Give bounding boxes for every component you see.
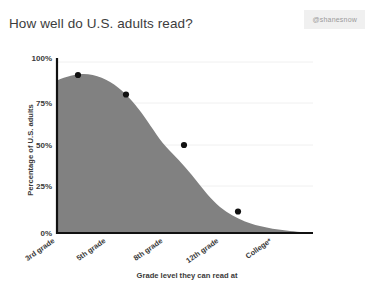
xtick-label-5th-grade: 5th grade — [75, 236, 107, 262]
xtick-label-8th-grade: 8th grade — [132, 236, 164, 262]
plot-area: 100% 75% 50% 25% 0% 3rd grade 5th grade … — [0, 0, 372, 296]
data-point-12th-grade — [235, 208, 241, 214]
data-point-3rd-grade — [75, 72, 81, 78]
area-chart-svg: 100% 75% 50% 25% 0% 3rd grade 5th grade … — [0, 0, 372, 296]
x-axis-tick-labels: 3rd grade 5th grade 8th grade 12th grade… — [23, 236, 273, 265]
data-point-8th-grade — [181, 142, 187, 148]
xtick-label-12th-grade: 12th grade — [184, 236, 220, 265]
ytick-label-25: 25% — [36, 182, 52, 191]
xtick-label-college: College* — [244, 236, 273, 260]
ytick-label-75: 75% — [36, 99, 52, 108]
y-axis-title: Percentage of U.S. adults — [26, 104, 35, 196]
x-axis-title: Grade level they can read at — [137, 271, 238, 280]
chart-container: How well do U.S. adults read? @shanesnow — [0, 0, 372, 296]
ytick-label-100: 100% — [32, 54, 52, 63]
xtick-label-3rd-grade: 3rd grade — [23, 236, 56, 263]
data-point-5th-grade — [123, 91, 129, 97]
ytick-label-50: 50% — [36, 141, 52, 150]
area-series-path — [57, 74, 313, 233]
